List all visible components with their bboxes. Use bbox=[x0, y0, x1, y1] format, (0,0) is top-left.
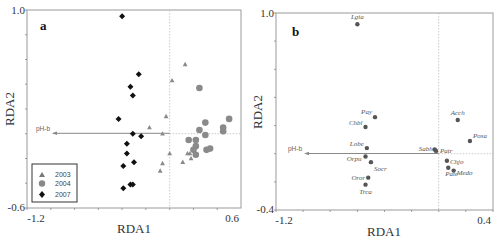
marker-2003 bbox=[189, 156, 194, 160]
marker-2004 bbox=[196, 127, 203, 134]
marker-2004 bbox=[207, 145, 214, 152]
x-max-label: 0.6 bbox=[225, 212, 239, 224]
species-point bbox=[373, 115, 377, 119]
marker-2007 bbox=[120, 163, 126, 169]
marker-2004 bbox=[193, 151, 200, 158]
x-axis-title: RDA1 bbox=[117, 221, 151, 236]
species-label: Patr bbox=[439, 147, 453, 155]
marker-2007 bbox=[116, 116, 122, 122]
vector-label: pH-b bbox=[288, 145, 302, 153]
marker-2003 bbox=[147, 125, 152, 129]
y-max-label: 1.0 bbox=[260, 7, 274, 19]
species-point bbox=[468, 139, 472, 143]
arrow-head-icon bbox=[52, 132, 57, 136]
marker-2007 bbox=[130, 92, 136, 98]
marker-2003 bbox=[158, 168, 163, 172]
species-point bbox=[366, 175, 370, 179]
figure: pH-b 2003 2004 2007 a 1.0 -0.6 -1.2 0.6 … bbox=[0, 0, 497, 241]
species-label: Pay bbox=[360, 108, 373, 116]
species-point bbox=[363, 125, 367, 129]
panel-a: pH-b 2003 2004 2007 a 1.0 -0.6 -1.2 0.6 … bbox=[2, 4, 241, 236]
marker-2004 bbox=[193, 137, 200, 144]
species-label: Sabh bbox=[419, 145, 434, 153]
legend-2007: 2007 bbox=[55, 191, 71, 198]
panel-letter: b bbox=[292, 24, 299, 39]
species-label: Trca bbox=[359, 188, 372, 196]
y-axis-title: RDA2 bbox=[2, 92, 17, 126]
species-label: Chjo bbox=[450, 158, 464, 166]
legend-2003: 2003 bbox=[55, 171, 71, 178]
species-point bbox=[355, 22, 359, 26]
marker-2007 bbox=[130, 131, 136, 137]
marker-2003 bbox=[170, 78, 175, 82]
marker-2003 bbox=[183, 62, 188, 66]
marker-2003 bbox=[180, 160, 185, 164]
markers bbox=[116, 13, 233, 191]
marker-2004 bbox=[220, 128, 227, 135]
marker-2007 bbox=[136, 71, 142, 77]
x-axis-title: RDA1 bbox=[367, 224, 401, 239]
y-min-label: -0.4 bbox=[257, 203, 275, 215]
marker-2004 bbox=[202, 132, 209, 139]
vector-label: pH-b bbox=[36, 125, 50, 133]
species-point bbox=[365, 146, 369, 150]
legend-2004: 2004 bbox=[55, 180, 71, 187]
x-max-label: 0.4 bbox=[477, 214, 491, 226]
species-point bbox=[445, 159, 449, 163]
species-point bbox=[363, 154, 367, 158]
circle-icon bbox=[39, 180, 45, 186]
arrow-head-icon bbox=[304, 152, 309, 156]
species-label: Socr bbox=[374, 165, 387, 173]
species-point bbox=[451, 168, 455, 172]
species-point bbox=[456, 118, 460, 122]
marker-2007 bbox=[131, 159, 137, 165]
species-points: LgiaPayChblLobeOrpuSocrOrorTrcaSabhPatrC… bbox=[347, 13, 488, 195]
marker-2003 bbox=[160, 161, 165, 165]
marker-2007 bbox=[120, 185, 126, 191]
y-axis-title: RDA2 bbox=[250, 95, 265, 129]
marker-2007 bbox=[138, 133, 144, 139]
species-label: Acch bbox=[450, 109, 465, 117]
species-label: Orpu bbox=[347, 155, 362, 163]
marker-2007 bbox=[119, 13, 125, 19]
y-max-label: 1.0 bbox=[11, 4, 25, 16]
species-label: Oror bbox=[351, 174, 365, 182]
y-min-label: -0.6 bbox=[8, 201, 26, 213]
marker-2004 bbox=[185, 137, 192, 144]
species-label: Lgia bbox=[350, 13, 364, 21]
marker-2004 bbox=[202, 119, 209, 126]
species-point bbox=[369, 160, 373, 164]
species-label: Posa bbox=[472, 132, 488, 140]
marker-2003 bbox=[164, 114, 169, 118]
panel-letter: a bbox=[40, 18, 47, 33]
marker-2004 bbox=[226, 116, 233, 123]
x-min-label: -1.2 bbox=[27, 212, 44, 224]
marker-2007 bbox=[127, 84, 133, 90]
species-label: Medo bbox=[456, 169, 473, 177]
marker-2003 bbox=[167, 151, 172, 155]
panel-b: pH-b LgiaPayChblLobeOrpuSocrOrorTrcaSabh… bbox=[250, 7, 493, 239]
marker-2004 bbox=[196, 85, 203, 92]
species-point bbox=[363, 182, 367, 186]
legend: 2003 2004 2007 bbox=[32, 164, 77, 202]
species-label: Lobe bbox=[349, 140, 364, 148]
species-point bbox=[434, 149, 438, 153]
marker-2007 bbox=[124, 151, 130, 157]
species-label: Chbl bbox=[349, 119, 363, 127]
x-min-label: -1.2 bbox=[275, 214, 292, 226]
marker-2007 bbox=[124, 141, 130, 147]
